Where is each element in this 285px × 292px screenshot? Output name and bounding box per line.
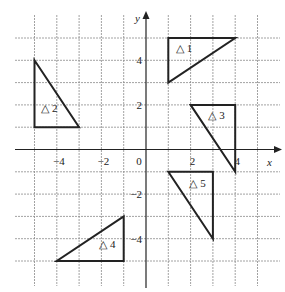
axes: y x: [15, 11, 282, 288]
triangle-label: △ 3: [208, 109, 225, 121]
grid-lines: [15, 15, 280, 286]
triangle-label: △ 2: [41, 102, 57, 114]
y-tick-label: 2: [137, 99, 143, 111]
x-tick-label: 0: [136, 155, 142, 167]
x-tick-label: 2: [190, 155, 196, 167]
triangle-label: △ 4: [99, 238, 116, 250]
x-tick-label: −4: [53, 155, 65, 167]
x-axis-arrow-icon: [274, 146, 282, 153]
y-tick-label: −2: [130, 188, 142, 200]
triangle-label: △ 5: [189, 177, 206, 189]
x-tick-label: −2: [98, 155, 110, 167]
y-tick-label: −4: [130, 233, 142, 245]
y-tick-label: 4: [137, 54, 143, 66]
triangle-label: △ 1: [176, 42, 192, 54]
triangle-3: △ 3: [191, 105, 236, 172]
coordinate-plane: y x −4−202442−2−4 △ 1△ 2△ 3△ 4△ 5: [0, 0, 285, 292]
y-axis-arrow-icon: [143, 11, 150, 19]
y-axis-label: y: [134, 12, 140, 24]
x-axis-label: x: [266, 156, 272, 168]
